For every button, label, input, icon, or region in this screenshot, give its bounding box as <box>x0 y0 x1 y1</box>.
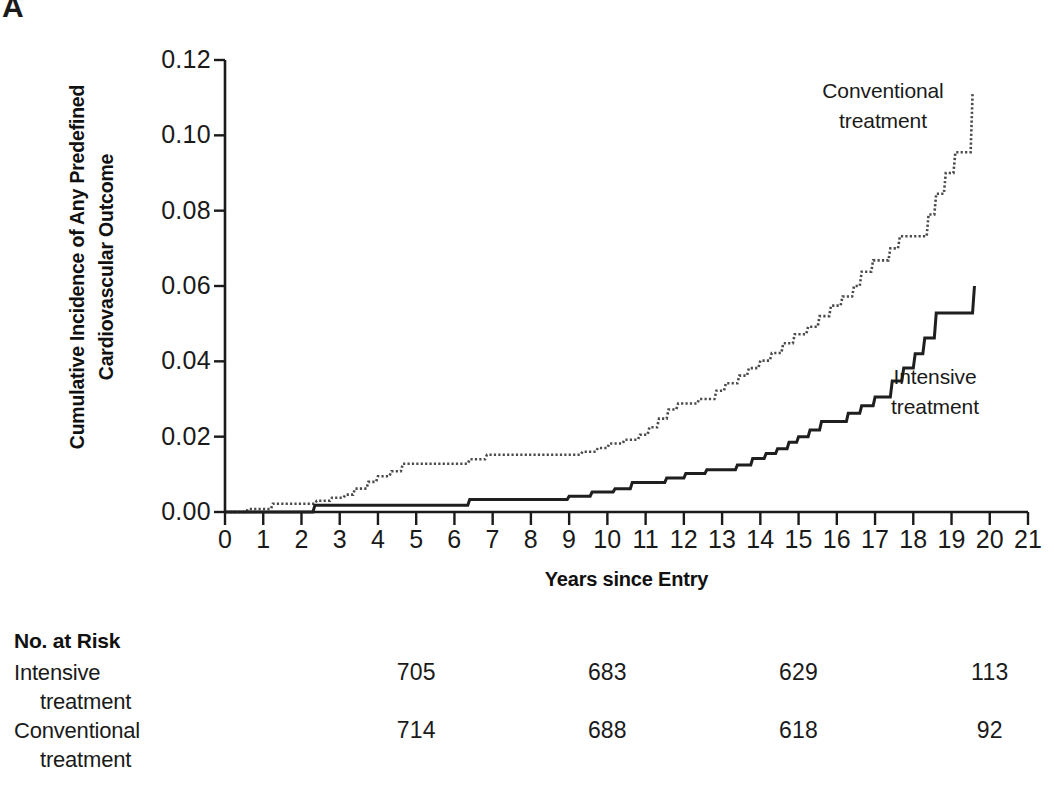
risk-value: 113 <box>944 658 1036 687</box>
risk-row-label-line2: treatment <box>14 745 344 774</box>
risk-value: 683 <box>561 658 653 687</box>
risk-value: 688 <box>561 716 653 745</box>
panel-letter: A <box>2 0 24 24</box>
curve-label-intensive-line1: Intensive <box>893 365 976 388</box>
number-at-risk-table: No. at Risk Intensive treatment 70568362… <box>14 628 1044 796</box>
series-line-conventional-treatment <box>225 94 973 512</box>
curve-label-intensive-line2: treatment <box>891 395 979 418</box>
risk-value: 92 <box>944 716 1036 745</box>
y-axis-tick-label: 0.06 <box>125 273 211 298</box>
number-at-risk-title: No. at Risk <box>14 628 120 653</box>
y-axis-tick-label: 0.02 <box>125 424 211 449</box>
y-axis-title-line1: Cumulative Incidence of Any Predefined <box>63 17 92 517</box>
risk-value: 629 <box>753 658 845 687</box>
x-axis-tick-labels: 0123456789101112131415161718192021 <box>225 524 1028 558</box>
curve-label-conventional-line1: Conventional <box>822 79 943 102</box>
curve-label-intensive: Intensive treatment <box>860 362 1010 422</box>
x-axis-title: Years since Entry <box>225 568 1028 591</box>
series-layer <box>225 94 974 512</box>
risk-row-label-intensive: Intensive treatment <box>14 658 344 716</box>
y-axis-tick-label: 0.12 <box>125 47 211 72</box>
curve-label-conventional-line2: treatment <box>839 109 927 132</box>
risk-row-label-conventional: Conventional treatment <box>14 716 344 774</box>
risk-row-label-line1: Intensive <box>14 658 344 687</box>
y-axis-ticks <box>214 60 225 512</box>
curve-label-conventional: Conventional treatment <box>793 76 973 136</box>
y-axis-tick-labels: 0.000.020.040.060.080.100.12 <box>125 0 211 560</box>
y-axis-tick-label: 0.10 <box>125 122 211 147</box>
y-axis-tick-label: 0.04 <box>125 348 211 373</box>
risk-row-label-line2: treatment <box>14 687 344 716</box>
figure-panel-a: A Cumulative Incidence of Any Predefined… <box>0 0 1054 798</box>
risk-value: 618 <box>753 716 845 745</box>
y-axis-tick-label: 0.00 <box>125 499 211 524</box>
risk-row-label-line1: Conventional <box>14 716 344 745</box>
y-axis-title: Cumulative Incidence of Any Predefined C… <box>63 17 121 517</box>
y-axis-tick-label: 0.08 <box>125 198 211 223</box>
risk-value: 705 <box>370 658 462 687</box>
y-axis-title-line2: Cardiovascular Outcome <box>92 17 121 517</box>
risk-value: 714 <box>370 716 462 745</box>
x-axis-tick-label: 21 <box>1006 524 1050 554</box>
